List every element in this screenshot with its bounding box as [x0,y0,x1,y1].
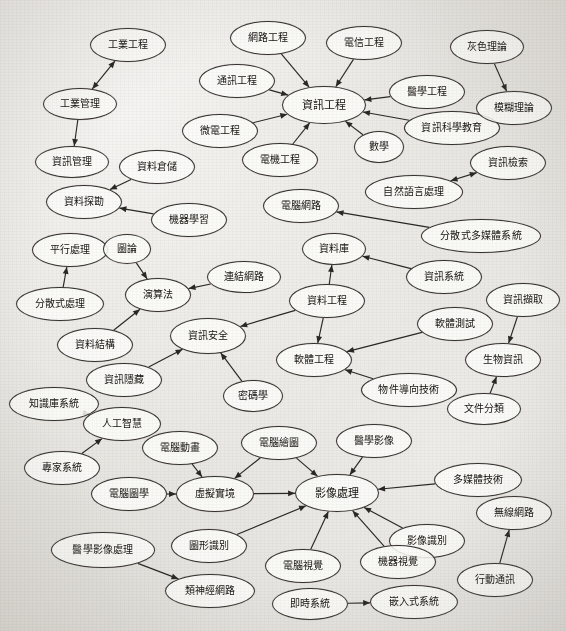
concept-node[interactable]: 軟體工程 [276,343,352,377]
concept-node[interactable]: 資料探勘 [46,185,122,219]
concept-node-label: 演算法 [143,290,174,300]
concept-node[interactable]: 類神經網路 [165,574,255,608]
concept-node-label: 軟體測試 [435,319,476,329]
concept-node[interactable]: 資訊管理 [35,146,109,178]
concept-node[interactable]: 連結網路 [207,261,281,293]
concept-node-label: 平行處理 [50,245,91,255]
concept-node[interactable]: 資訊檢索 [470,146,546,180]
concept-node[interactable]: 微電工程 [182,114,258,148]
concept-node[interactable]: 電腦動畫 [142,431,218,465]
concept-node-label: 即時系統 [290,599,331,609]
concept-node[interactable]: 行動通訊 [457,563,533,597]
concept-node[interactable]: 專家系統 [24,451,100,485]
concept-node-label: 資訊檢索 [488,158,529,168]
concept-node[interactable]: 圖形識別 [171,529,247,563]
concept-node[interactable]: 資訊隱藏 [86,363,162,397]
concept-node[interactable]: 即時系統 [272,588,348,620]
concept-node[interactable]: 電機工程 [242,143,318,177]
concept-node-label: 資訊隱藏 [104,375,145,385]
concept-node[interactable]: 資訊擷取 [486,283,560,317]
concept-node[interactable]: 通訊工程 [199,64,275,98]
concept-node-label: 電腦動畫 [160,443,201,453]
concept-node[interactable]: 物件導向技術 [361,373,457,407]
concept-node[interactable]: 平行處理 [32,233,108,267]
concept-node-label: 電腦視覺 [283,561,324,571]
concept-node-label: 電腦網路 [281,201,322,211]
concept-node-label: 電信工程 [344,38,385,48]
concept-node-label: 資料結構 [75,340,116,350]
concept-node[interactable]: 電信工程 [326,26,402,60]
concept-node-label: 資訊擷取 [503,295,544,305]
concept-node-label: 知識庫系統 [29,399,80,409]
concept-node[interactable]: 資料庫 [302,233,366,265]
concept-node-label: 資訊系統 [424,272,465,282]
concept-node-label: 電腦圖學 [109,489,150,499]
concept-node[interactable]: 虛擬實境 [176,476,254,512]
concept-node[interactable]: 灰色理論 [450,30,524,64]
concept-node-label: 文件分類 [464,404,505,414]
concept-node[interactable]: 分散式處理 [16,287,104,321]
concept-node[interactable]: 網路工程 [230,21,306,55]
concept-node[interactable]: 電腦視覺 [265,549,341,583]
concept-node[interactable]: 資訊工程 [282,86,366,124]
concept-node-label: 生物資訊 [483,355,524,365]
concept-node[interactable]: 影像處理 [295,474,379,512]
concept-node-label: 影像識別 [407,536,448,546]
concept-node-label: 密碼學 [238,391,269,401]
concept-node[interactable]: 多媒體技術 [434,463,522,497]
concept-node-label: 影像處理 [315,488,360,499]
concept-node-label: 圖形識別 [189,541,230,551]
concept-node-label: 微電工程 [200,126,241,136]
concept-node-label: 人工智慧 [102,419,143,429]
concept-map-canvas: 工業工程工業管理資訊管理資料倉儲資料探勘機器學習網路工程通訊工程微電工程電機工程… [0,0,566,631]
concept-node[interactable]: 資訊系統 [406,260,482,294]
concept-node[interactable]: 自然語言處理 [365,175,463,209]
concept-node-label: 連結網路 [224,272,265,282]
concept-node-label: 資料倉儲 [137,162,178,172]
concept-node[interactable]: 知識庫系統 [9,387,99,421]
concept-node[interactable]: 資料結構 [57,328,133,362]
concept-node[interactable]: 資料工程 [289,284,365,318]
concept-node[interactable]: 密碼學 [223,380,283,412]
concept-node[interactable]: 工業工程 [90,28,166,62]
concept-node-label: 灰色理論 [467,42,508,52]
concept-node[interactable]: 演算法 [125,278,191,312]
concept-node[interactable]: 電腦繪圖 [241,426,317,460]
concept-node[interactable]: 無線網路 [476,496,552,530]
node-layer: 工業工程工業管理資訊管理資料倉儲資料探勘機器學習網路工程通訊工程微電工程電機工程… [0,0,566,631]
concept-node[interactable]: 圖論 [103,234,151,264]
concept-node[interactable]: 數學 [354,131,404,163]
concept-node[interactable]: 分散式多媒體系統 [421,219,541,253]
concept-node[interactable]: 文件分類 [447,393,521,425]
concept-node[interactable]: 電腦網路 [263,189,339,223]
concept-node-label: 資訊科學教育 [421,123,482,133]
concept-node-label: 數學 [369,142,389,152]
concept-node-label: 工業管理 [60,99,101,109]
concept-node[interactable]: 醫學影像處理 [51,532,155,568]
concept-node[interactable]: 機器學習 [151,203,227,237]
concept-node-label: 電機工程 [260,155,301,165]
concept-node[interactable]: 嵌入式系統 [370,585,458,619]
concept-node[interactable]: 模糊理論 [476,91,552,125]
concept-node-label: 專家系統 [42,463,83,473]
concept-node[interactable]: 資訊安全 [170,318,246,354]
concept-node[interactable]: 資料倉儲 [119,150,195,184]
concept-node-label: 分散式處理 [35,299,86,309]
concept-node-label: 醫學工程 [407,87,448,97]
concept-node-label: 資訊管理 [52,157,93,167]
concept-node-label: 資料工程 [307,296,348,306]
concept-node-label: 嵌入式系統 [389,597,440,607]
concept-node-label: 機器視覺 [378,557,419,567]
concept-node[interactable]: 軟體測試 [417,307,493,341]
concept-node[interactable]: 醫學影像 [336,424,412,458]
concept-node[interactable]: 醫學工程 [389,75,465,109]
concept-node[interactable]: 工業管理 [43,88,117,120]
concept-node-label: 軟體工程 [294,355,335,365]
concept-node[interactable]: 機器視覺 [360,545,436,579]
concept-node[interactable]: 人工智慧 [83,407,161,441]
concept-node[interactable]: 電腦圖學 [91,477,167,511]
concept-node-label: 機器學習 [169,215,210,225]
concept-node-label: 分散式多媒體系統 [440,231,522,241]
concept-node-label: 工業工程 [108,40,149,50]
concept-node[interactable]: 生物資訊 [465,343,541,377]
